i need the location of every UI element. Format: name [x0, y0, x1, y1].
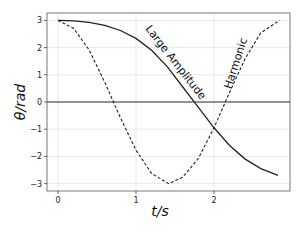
x-axis-ticks: 012 [55, 191, 216, 205]
x-tick-label: 2 [211, 196, 216, 205]
y-axis-label: θ/rad [12, 84, 28, 121]
pendulum-angle-chart: −3−2−10123 012 Large Amplitude Harmonic … [0, 0, 304, 233]
x-tick-label: 1 [133, 196, 138, 205]
y-tick-label: 3 [37, 16, 42, 25]
large-amplitude-label: Large Amplitude [143, 23, 209, 103]
y-tick-label: −2 [30, 152, 42, 161]
x-axis-label: t/s [151, 203, 169, 219]
harmonic-label: Harmonic [221, 36, 250, 90]
y-tick-label: −3 [30, 180, 42, 189]
y-tick-label: 0 [37, 98, 42, 107]
x-tick-label: 0 [55, 196, 60, 205]
y-axis-ticks: −3−2−10123 [30, 16, 47, 188]
y-tick-label: 2 [37, 44, 42, 53]
y-tick-label: −1 [30, 125, 42, 134]
y-tick-label: 1 [37, 71, 42, 80]
